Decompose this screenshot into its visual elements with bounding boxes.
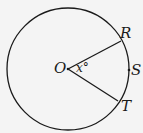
label-S: S [131,63,141,78]
label-T: T [121,99,131,114]
angle-label: x° [76,62,89,74]
center-point-O [67,68,70,71]
circle-diagram: O x° R S T [0,0,143,133]
point-S [128,69,131,72]
label-O: O [54,61,66,76]
label-R: R [120,26,131,41]
